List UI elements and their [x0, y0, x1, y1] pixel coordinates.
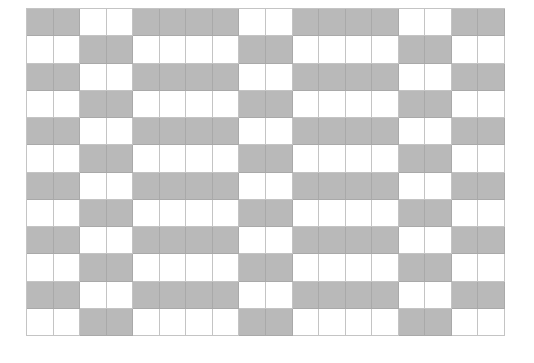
grid-cell-filled [372, 118, 399, 145]
grid-cell-filled [478, 64, 505, 91]
grid-cell-filled [186, 118, 213, 145]
grid-cell-empty [452, 145, 479, 172]
grid-cell-filled [293, 9, 320, 36]
grid-cell-empty [213, 309, 240, 336]
grid-cell-filled [160, 64, 187, 91]
grid-cell-filled [27, 64, 54, 91]
grid-cell-empty [425, 173, 452, 200]
grid-cell-empty [133, 145, 160, 172]
grid-cell-filled [239, 91, 266, 118]
grid-cell-filled [54, 173, 81, 200]
grid-cell-filled [186, 9, 213, 36]
grid-cell-filled [186, 282, 213, 309]
grid-cell-empty [319, 36, 346, 63]
grid-cell-filled [213, 173, 240, 200]
grid-cell-empty [160, 91, 187, 118]
grid-cell-filled [452, 118, 479, 145]
grid-cell-filled [186, 227, 213, 254]
grid-cell-empty [478, 91, 505, 118]
grid-cell-empty [54, 309, 81, 336]
grid-cell-empty [399, 282, 426, 309]
grid-cell-filled [293, 173, 320, 200]
grid-cell-filled [160, 9, 187, 36]
grid-cell-filled [80, 200, 107, 227]
grid-cell-empty [372, 254, 399, 281]
grid-cell-filled [452, 173, 479, 200]
grid-cell-filled [54, 9, 81, 36]
grid-cell-filled [478, 9, 505, 36]
grid-cell-filled [319, 282, 346, 309]
grid-cell-filled [478, 282, 505, 309]
grid-cell-filled [213, 282, 240, 309]
grid-cell-empty [213, 200, 240, 227]
grid-cell-filled [346, 173, 373, 200]
grid-cell-empty [213, 36, 240, 63]
grid-cell-empty [399, 118, 426, 145]
grid-cell-filled [239, 36, 266, 63]
grid-cell-empty [213, 91, 240, 118]
grid-cell-empty [478, 36, 505, 63]
grid-cell-filled [346, 227, 373, 254]
grid-cell-filled [107, 200, 134, 227]
grid-cell-empty [80, 64, 107, 91]
grid-cell-filled [266, 91, 293, 118]
grid-cell-empty [133, 254, 160, 281]
grid-cell-filled [372, 173, 399, 200]
grid-cell-filled [107, 145, 134, 172]
grid-cell-filled [80, 36, 107, 63]
grid-cell-empty [425, 282, 452, 309]
grid-cell-filled [372, 9, 399, 36]
grid-cell-empty [293, 254, 320, 281]
grid-cell-empty [372, 309, 399, 336]
grid-cell-filled [80, 254, 107, 281]
grid-cell-filled [399, 309, 426, 336]
grid-cell-empty [133, 309, 160, 336]
grid-cell-empty [133, 200, 160, 227]
grid-cell-filled [293, 227, 320, 254]
grid-cell-filled [293, 64, 320, 91]
grid-cell-filled [266, 200, 293, 227]
grid-cell-filled [107, 36, 134, 63]
grid-cell-filled [478, 118, 505, 145]
grid-cell-empty [27, 145, 54, 172]
grid-cell-filled [27, 282, 54, 309]
grid-cell-filled [425, 145, 452, 172]
grid-cell-empty [27, 91, 54, 118]
grid-cell-empty [80, 227, 107, 254]
grid-cell-empty [186, 200, 213, 227]
weave-grid [26, 8, 505, 336]
grid-cell-filled [319, 227, 346, 254]
grid-cell-empty [107, 9, 134, 36]
grid-cell-empty [213, 254, 240, 281]
grid-cell-empty [27, 200, 54, 227]
grid-cell-empty [54, 145, 81, 172]
grid-cell-empty [239, 64, 266, 91]
grid-cell-filled [399, 145, 426, 172]
grid-cell-filled [107, 309, 134, 336]
grid-cell-filled [319, 9, 346, 36]
grid-cell-empty [266, 118, 293, 145]
grid-cell-filled [160, 282, 187, 309]
grid-cell-filled [107, 254, 134, 281]
grid-cell-filled [346, 9, 373, 36]
grid-cell-empty [425, 118, 452, 145]
grid-cell-filled [239, 309, 266, 336]
grid-cell-empty [425, 64, 452, 91]
grid-cell-filled [452, 227, 479, 254]
grid-cell-empty [27, 254, 54, 281]
grid-cell-filled [239, 200, 266, 227]
grid-cell-empty [54, 91, 81, 118]
grid-cell-filled [133, 118, 160, 145]
grid-cell-empty [107, 118, 134, 145]
grid-cell-empty [160, 145, 187, 172]
grid-cell-filled [239, 145, 266, 172]
grid-cell-filled [133, 227, 160, 254]
grid-cell-empty [452, 200, 479, 227]
grid-cell-filled [80, 309, 107, 336]
grid-cell-empty [54, 200, 81, 227]
grid-cell-empty [54, 254, 81, 281]
grid-cell-filled [266, 254, 293, 281]
grid-cell-empty [239, 9, 266, 36]
grid-cell-empty [266, 9, 293, 36]
grid-cell-empty [266, 282, 293, 309]
